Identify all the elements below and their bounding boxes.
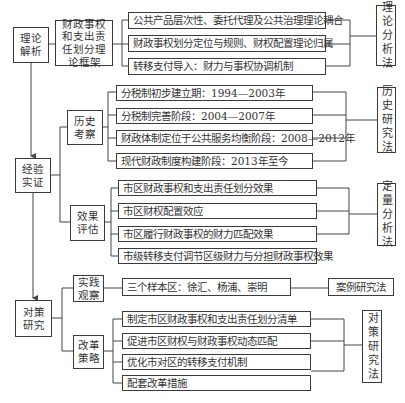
effect-item: 市区履行财政事权的财力匹配效果 — [118, 226, 317, 242]
section-theory-analysis: 理论解析 — [13, 27, 49, 63]
method-quantitative-analysis: 定量分析法 — [377, 183, 396, 246]
method-case-study: 案例研究法 — [328, 278, 394, 296]
theory-item: 转移支付导入：财力与事权协调机制 — [128, 58, 326, 75]
effect-item: 市区财权配置效应 — [118, 203, 317, 219]
history-item: 分税制初步建立期：1994—2003年 — [116, 85, 313, 101]
reform-item: 制定市区财政事权和支出责任划分清单 — [122, 311, 311, 327]
section-empirical: 经验实证 — [15, 158, 51, 193]
reform-item: 优化市对区的转移支付机制 — [122, 354, 311, 370]
history-item: 现代财政制度构建阶段：2013年至今 — [116, 153, 313, 169]
method-policy-research: 对策研究法 — [362, 310, 382, 383]
effect-item: 市级转移支付调节区级财力与分担财政事权效果 — [118, 248, 317, 264]
history-item: 财政体制定位于公共服务均衡阶段：2008—2012年 — [116, 130, 313, 146]
section-policy-research: 对策研究 — [15, 300, 52, 337]
subgroup-effect-evaluation: 效果评估 — [70, 205, 105, 241]
subgroup-practice-observation: 实践观察 — [73, 275, 104, 302]
subgroup-reform-strategy: 改革策略 — [73, 335, 104, 369]
method-theory-analysis: 理论分析法 — [376, 5, 396, 66]
history-item: 分税制完善阶段：2004—2007年 — [116, 108, 313, 124]
theory-item: 财政事权划分定位与规则、财权配置理论归属 — [128, 35, 326, 52]
theory-item: 公共产品层次性、委托代理及公共治理理论耦合 — [128, 12, 326, 29]
reform-item: 配套改革措施 — [122, 375, 311, 391]
method-history-research: 历史研究法 — [377, 87, 396, 153]
reform-item: 促进市区财权与财政事权动态匹配 — [122, 333, 311, 349]
subgroup-history: 历史考察 — [67, 110, 103, 145]
sample-districts-item: 三个样本区：徐汇、杨浦、崇明 — [122, 278, 291, 296]
effect-item: 市区财政事权和支出责任划分效果 — [118, 180, 317, 196]
theory-framework-box: 财政事权和支出责任划分理论框架 — [55, 20, 113, 66]
